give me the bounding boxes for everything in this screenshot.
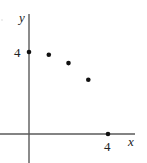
data-point-1 xyxy=(47,52,52,57)
x-axis-label: x xyxy=(127,134,134,149)
data-point-3 xyxy=(86,77,91,82)
data-points xyxy=(27,50,111,137)
y-tick-label-4: 4 xyxy=(14,45,21,60)
x-tick-label-4: 4 xyxy=(104,139,111,154)
data-point-4 xyxy=(106,132,111,137)
scatter-plot: y x 4 4 xyxy=(0,0,147,163)
data-point-0 xyxy=(27,50,32,55)
y-axis-label: y xyxy=(17,10,25,25)
scan-artifact xyxy=(1,19,3,21)
data-point-2 xyxy=(66,61,71,66)
